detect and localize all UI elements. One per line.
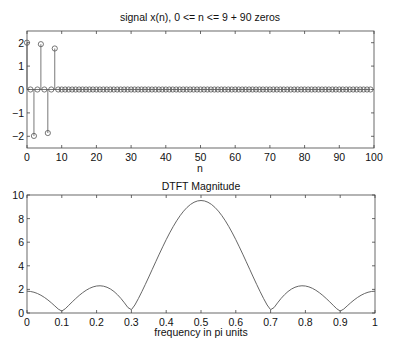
signal-y-tick-label: −2 — [12, 130, 24, 142]
signal-y-tick-label: −1 — [12, 107, 24, 119]
signal-axes: signal x(n), 0 <= n <= 9 + 90 zeros 0102… — [12, 11, 383, 174]
figure: signal x(n), 0 <= n <= 9 + 90 zeros 0102… — [0, 0, 395, 346]
dtft-x-tick-label: 0.9 — [333, 316, 348, 328]
dtft-y-tick-label: 6 — [18, 236, 24, 248]
dtft-x-tick-label: 0.3 — [124, 316, 139, 328]
signal-plot-title: signal x(n), 0 <= n <= 9 + 90 zeros — [120, 11, 280, 23]
signal-x-tick-label: 70 — [264, 151, 276, 163]
dtft-y-ticks: 0246810 — [12, 189, 375, 319]
dtft-y-tick-label: 10 — [12, 189, 24, 201]
signal-x-tick-label: 80 — [299, 151, 311, 163]
dtft-y-tick-label: 0 — [18, 307, 24, 319]
dtft-x-tick-label: 0.8 — [298, 316, 313, 328]
dtft-x-tick-label: 1 — [372, 316, 378, 328]
dtft-axes: DTFT Magnitude 00.10.20.30.40.50.60.70.8… — [12, 180, 378, 338]
signal-y-tick-label: 0 — [18, 84, 24, 96]
signal-x-tick-label: 100 — [365, 151, 383, 163]
dtft-y-tick-label: 2 — [18, 283, 24, 295]
signal-x-tick-label: 60 — [229, 151, 241, 163]
signal-x-tick-label: 30 — [125, 151, 137, 163]
signal-y-tick-label: 2 — [18, 37, 24, 49]
dtft-x-tick-label: 0.2 — [89, 316, 104, 328]
signal-x-tick-label: 90 — [333, 151, 345, 163]
dtft-y-tick-label: 8 — [18, 213, 24, 225]
dtft-x-tick-label: 0.7 — [263, 316, 278, 328]
dtft-x-tick-label: 0 — [24, 316, 30, 328]
signal-stems — [24, 40, 373, 138]
signal-x-tick-label: 10 — [56, 151, 68, 163]
signal-x-tick-label: 0 — [24, 151, 30, 163]
dtft-magnitude-line — [27, 201, 375, 312]
dtft-x-ticks: 00.10.20.30.40.50.60.70.80.91 — [24, 195, 378, 328]
signal-x-ticks: 0102030405060708090100 — [24, 31, 383, 163]
dtft-x-axis-label: frequency in pi units — [154, 326, 247, 338]
dtft-x-tick-label: 0.1 — [54, 316, 69, 328]
dtft-y-tick-label: 4 — [18, 260, 24, 272]
signal-y-tick-label: 1 — [18, 60, 24, 72]
signal-x-axis-label: n — [197, 162, 203, 174]
dtft-plot-title: DTFT Magnitude — [162, 180, 241, 192]
signal-x-tick-label: 20 — [91, 151, 103, 163]
signal-x-tick-label: 40 — [160, 151, 172, 163]
